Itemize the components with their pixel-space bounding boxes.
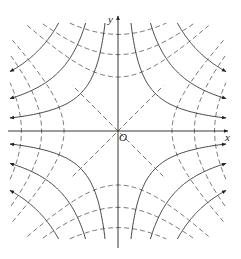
origin-label: O <box>119 131 127 143</box>
x-axis-label: x <box>224 131 230 143</box>
field-line <box>131 23 226 118</box>
field-line <box>10 23 105 118</box>
field-line <box>10 23 86 99</box>
field-line <box>10 23 59 72</box>
y-axis-label: y <box>107 13 113 25</box>
field-line <box>177 190 226 239</box>
saddle-field-diagram: x y O <box>0 0 241 259</box>
field-line <box>10 190 59 239</box>
field-line <box>150 23 226 99</box>
field-line <box>177 23 226 72</box>
